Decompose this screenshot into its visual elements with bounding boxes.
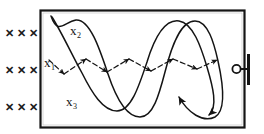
field-cross-icon: ✕: [5, 65, 14, 76]
field-cross-icon: ✕: [29, 102, 38, 113]
wave-label-x3: x3: [66, 95, 77, 111]
wave-label-x3-base: x: [66, 94, 73, 109]
wave-label-x1-sub: 1: [51, 63, 55, 72]
wave-label-x1: x1: [44, 56, 55, 72]
wave-label-x3-sub: 3: [73, 102, 77, 111]
field-cross-icon: ✕: [17, 65, 26, 76]
arrow-segment: [107, 59, 129, 72]
wave-label-x1-base: x: [44, 55, 51, 70]
field-cross-icon: ✕: [5, 102, 14, 113]
terminal-connector: [232, 54, 248, 85]
arrow-segment: [173, 59, 197, 69]
diagram-svg: [0, 0, 264, 134]
wave-label-x2: x2: [70, 24, 81, 40]
field-cross-icon: ✕: [17, 102, 26, 113]
field-cross-icon: ✕: [29, 28, 38, 39]
figure-canvas: ✕ ✕ ✕ ✕ ✕ ✕ ✕ ✕ ✕ x1 x2 x3: [0, 0, 264, 134]
field-cross-icon: ✕: [17, 28, 26, 39]
arrow-segment: [151, 59, 173, 71]
field-cross-icon: ✕: [5, 28, 14, 39]
wave-label-x2-sub: 2: [77, 31, 81, 40]
terminal-circle-icon: [232, 65, 240, 73]
field-cross-icon: ✕: [29, 65, 38, 76]
midline-arrow-chain: [49, 59, 217, 74]
wave-label-x2-base: x: [70, 23, 77, 38]
